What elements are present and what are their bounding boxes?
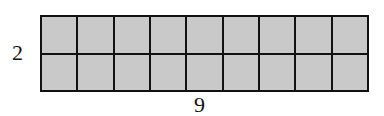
grid-cell bbox=[224, 55, 258, 91]
grid-cell bbox=[187, 17, 221, 53]
grid-cell bbox=[42, 17, 76, 53]
grid-cell bbox=[151, 17, 185, 53]
grid-cell bbox=[260, 17, 294, 53]
grid-cell bbox=[296, 55, 330, 91]
grid-cell bbox=[115, 17, 149, 53]
area-grid bbox=[40, 15, 369, 92]
grid-cell bbox=[115, 55, 149, 91]
grid-cell bbox=[296, 17, 330, 53]
grid-cell bbox=[78, 55, 112, 91]
grid-cell bbox=[260, 55, 294, 91]
grid-cell bbox=[151, 55, 185, 91]
row-count-label: 2 bbox=[12, 42, 23, 64]
grid-cell bbox=[78, 17, 112, 53]
grid-cell bbox=[187, 55, 221, 91]
grid-cell bbox=[333, 55, 367, 91]
grid-cell bbox=[224, 17, 258, 53]
grid-cell bbox=[42, 55, 76, 91]
column-count-label: 9 bbox=[194, 94, 205, 116]
grid-cell bbox=[333, 17, 367, 53]
